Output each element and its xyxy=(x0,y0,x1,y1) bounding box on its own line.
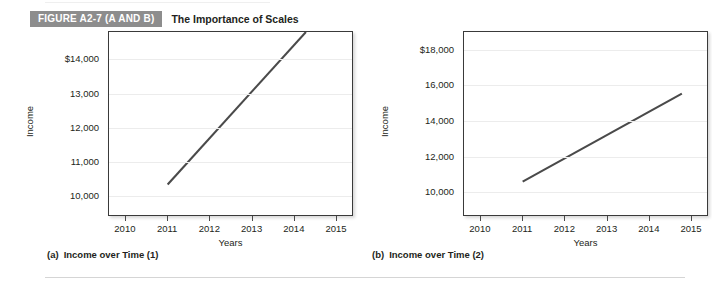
figure-header: FIGURE A2-7 (A AND B) The Importance of … xyxy=(30,11,299,27)
x-tick-label: 2015 xyxy=(681,223,702,234)
gridline xyxy=(109,196,352,197)
y-tick-label: 10,000 xyxy=(70,190,99,201)
x-axis-a: Years 201020112012201320142015 xyxy=(108,216,353,250)
y-tick-label: 12,000 xyxy=(70,121,99,132)
x-tick-label: 2011 xyxy=(512,223,532,234)
income-line-b xyxy=(523,94,682,182)
caption-b-text: Income over Time (2) xyxy=(389,249,484,260)
bottom-rule xyxy=(45,277,685,278)
gridline xyxy=(464,157,707,158)
y-tick-label: $14,000 xyxy=(65,53,99,64)
x-axis-title-b: Years xyxy=(574,237,598,248)
y-tick-label: 16,000 xyxy=(425,79,454,90)
x-tick xyxy=(125,216,126,221)
x-tick-label: 2012 xyxy=(199,223,220,234)
x-axis-b: Years 201020112012201320142015 xyxy=(463,216,708,250)
series-line-b xyxy=(464,32,707,215)
x-tick xyxy=(607,216,608,221)
y-tick-label: 14,000 xyxy=(425,114,454,125)
x-tick-label: 2010 xyxy=(469,223,490,234)
gridline xyxy=(464,85,707,86)
y-axis-labels-a: $14,00013,00012,00011,00010,000 xyxy=(30,31,104,216)
y-tick-label: $18,000 xyxy=(420,43,454,54)
x-tick-label: 2013 xyxy=(241,223,262,234)
figure-title: The Importance of Scales xyxy=(171,13,298,25)
x-tick-label: 2015 xyxy=(326,223,347,234)
caption-b-tag: (b) xyxy=(372,249,384,260)
gridline xyxy=(464,192,707,193)
top-rule xyxy=(45,2,270,3)
caption-a: (a)Income over Time (1) xyxy=(47,249,158,260)
y-tick-label: 11,000 xyxy=(71,156,99,167)
caption-a-text: Income over Time (1) xyxy=(64,249,159,260)
x-tick xyxy=(167,216,168,221)
y-tick-label: 13,000 xyxy=(70,87,99,98)
x-tick xyxy=(522,216,523,221)
x-tick xyxy=(336,216,337,221)
caption-a-tag: (a) xyxy=(47,249,59,260)
x-tick xyxy=(691,216,692,221)
x-tick xyxy=(480,216,481,221)
y-tick-label: 12,000 xyxy=(425,150,454,161)
y-tick-label: 10,000 xyxy=(425,186,454,197)
x-tick xyxy=(649,216,650,221)
x-axis-title-a: Years xyxy=(219,237,243,248)
x-tick xyxy=(252,216,253,221)
gridline xyxy=(464,121,707,122)
gridline xyxy=(109,94,352,95)
gridline xyxy=(109,162,352,163)
gridline xyxy=(109,128,352,129)
x-tick-label: 2012 xyxy=(554,223,575,234)
x-tick xyxy=(564,216,565,221)
x-tick-label: 2010 xyxy=(114,223,135,234)
x-tick xyxy=(209,216,210,221)
x-tick-label: 2013 xyxy=(596,223,617,234)
x-tick xyxy=(294,216,295,221)
gridline xyxy=(464,50,707,51)
gridline xyxy=(109,59,352,60)
x-tick-label: 2014 xyxy=(283,223,304,234)
x-tick-label: 2014 xyxy=(638,223,659,234)
plot-area-b xyxy=(463,31,708,216)
caption-b: (b)Income over Time (2) xyxy=(372,249,484,260)
plot-area-a xyxy=(108,31,353,216)
x-tick-label: 2011 xyxy=(157,223,177,234)
figure-number-badge: FIGURE A2-7 (A AND B) xyxy=(30,11,162,27)
y-axis-labels-b: $18,00016,00014,00012,00010,000 xyxy=(385,31,459,216)
